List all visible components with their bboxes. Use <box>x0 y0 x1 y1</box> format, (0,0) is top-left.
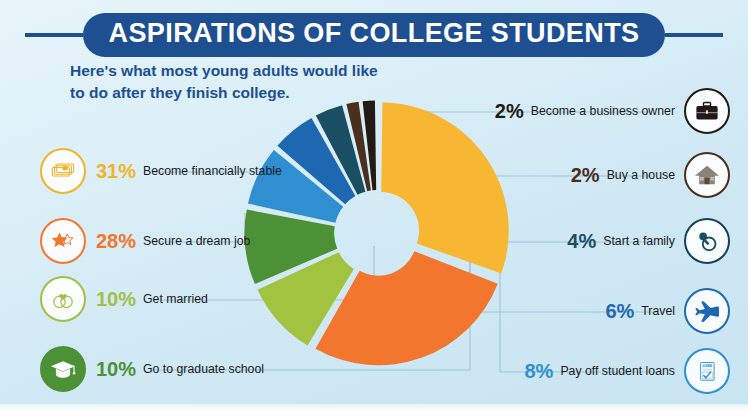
money-icon <box>40 148 86 194</box>
pacifier-icon <box>684 218 730 264</box>
callout-business-owner[interactable]: 2% Become a business owner <box>495 88 730 134</box>
page-title: ASPIRATIONS OF COLLEGE STUDENTS <box>83 13 666 56</box>
title-banner: ASPIRATIONS OF COLLEGE STUDENTS <box>0 14 748 56</box>
donut-chart-svg <box>232 88 522 378</box>
callout-percent: 10% <box>96 288 136 311</box>
callout-label: Buy a house <box>607 168 675 182</box>
subtitle-line-2: to do after they finish college. <box>70 82 430 104</box>
callout-percent: 28% <box>96 230 136 253</box>
title-rule-right <box>665 33 723 37</box>
airplane-icon <box>684 288 730 334</box>
callout-percent: 2% <box>571 164 600 187</box>
subtitle: Here's what most young adults would like… <box>70 60 430 104</box>
svg-text:LOAN: LOAN <box>703 364 713 368</box>
callout-percent: 2% <box>495 100 524 123</box>
callout-percent: 4% <box>567 230 596 253</box>
subtitle-line-1: Here's what most young adults would like <box>70 60 430 82</box>
infographic-canvas: ASPIRATIONS OF COLLEGE STUDENTS Here's w… <box>0 0 748 416</box>
donut-chart <box>232 88 522 378</box>
callout-label: Become financially stable <box>143 164 282 178</box>
donut-slice <box>381 102 508 273</box>
callout-start-family[interactable]: 4% Start a family <box>567 218 730 264</box>
callout-label: Become a business owner <box>531 104 675 118</box>
loan-document-icon: LOAN <box>684 348 730 394</box>
callout-travel[interactable]: 6% Travel <box>605 288 730 334</box>
callout-grad-school[interactable]: 10% Go to graduate school <box>40 346 264 392</box>
callout-label: Pay off student loans <box>560 364 675 378</box>
star-icon <box>40 218 86 264</box>
callout-percent: 10% <box>96 358 136 381</box>
briefcase-icon <box>684 88 730 134</box>
callout-percent: 31% <box>96 160 136 183</box>
callout-buy-house[interactable]: 2% Buy a house <box>571 152 730 198</box>
callout-get-married[interactable]: 10% Get married <box>40 276 208 322</box>
graduation-cap-icon <box>40 346 86 392</box>
callout-percent: 8% <box>524 360 553 383</box>
callout-label: Get married <box>143 292 208 306</box>
callout-label: Travel <box>641 304 675 318</box>
callout-percent: 6% <box>605 300 634 323</box>
callout-dream-job[interactable]: 28% Secure a dream job <box>40 218 250 264</box>
house-icon <box>684 152 730 198</box>
title-rule-left <box>25 33 83 37</box>
wedding-rings-icon <box>40 276 86 322</box>
bottom-page-edge <box>0 404 748 416</box>
callout-label: Go to graduate school <box>143 362 264 376</box>
callout-label: Start a family <box>603 234 675 248</box>
callout-financially-stable[interactable]: 31% Become financially stable <box>40 148 282 194</box>
callout-label: Secure a dream job <box>143 234 250 248</box>
callout-student-loans[interactable]: 8% Pay off student loans LOAN <box>524 348 730 394</box>
